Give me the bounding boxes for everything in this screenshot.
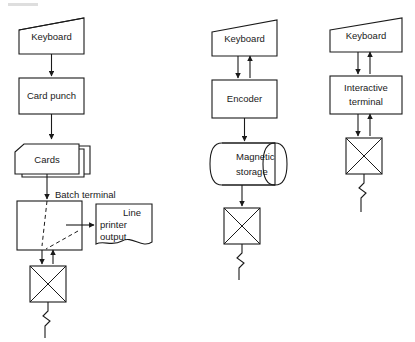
node-c1-line-printer-line3: output bbox=[100, 231, 127, 242]
comm-line-bolt-c1 bbox=[43, 302, 50, 338]
node-c1-comm-link[interactable] bbox=[30, 266, 66, 302]
node-c1-card-punch[interactable]: Card punch bbox=[19, 78, 84, 114]
node-c2-magnetic-storage[interactable]: Magnetic storage bbox=[210, 143, 287, 185]
column-interactive-terminal: Keyboard Interactive terminal bbox=[330, 18, 402, 212]
node-c3-interactive-line2: terminal bbox=[349, 96, 383, 107]
node-c1-cards[interactable]: Cards bbox=[15, 144, 90, 177]
node-c1-line-printer-line1: Line bbox=[123, 207, 141, 218]
node-c3-interactive-terminal[interactable]: Interactive terminal bbox=[330, 76, 402, 114]
column-key-to-storage: Keyboard Encoder Magnetic storage bbox=[210, 20, 287, 280]
node-c2-encoder[interactable]: Encoder bbox=[212, 80, 277, 118]
node-c1-keyboard-label: Keyboard bbox=[31, 31, 72, 42]
node-c2-keyboard[interactable]: Keyboard bbox=[212, 20, 277, 56]
column-batch-card-punch: Keyboard Card punch Cards Batch terminal bbox=[15, 18, 152, 338]
scan-artifact bbox=[8, 3, 38, 6]
node-c2-comm-link[interactable] bbox=[224, 208, 260, 244]
node-c1-cards-label: Cards bbox=[34, 154, 60, 165]
node-c1-line-printer-line2: printer bbox=[100, 219, 127, 230]
comm-line-bolt-c2 bbox=[237, 244, 244, 280]
edge-label-batch-terminal: Batch terminal bbox=[55, 189, 116, 200]
node-c1-card-punch-label: Card punch bbox=[27, 90, 76, 101]
node-c2-magnetic-line1: Magnetic bbox=[236, 151, 275, 162]
node-c1-line-printer-output[interactable]: Line printer output bbox=[96, 204, 152, 244]
node-c1-keyboard[interactable]: Keyboard bbox=[19, 18, 84, 54]
node-c2-keyboard-label: Keyboard bbox=[224, 33, 265, 44]
node-c2-encoder-label: Encoder bbox=[227, 93, 262, 104]
comm-line-bolt-c3 bbox=[359, 174, 366, 212]
node-c2-magnetic-line2: storage bbox=[236, 166, 268, 177]
node-c3-keyboard-label: Keyboard bbox=[346, 30, 387, 41]
flowchart-diagram: Keyboard Card punch Cards Batch terminal bbox=[0, 0, 415, 342]
node-c3-comm-link[interactable] bbox=[346, 138, 382, 174]
node-c3-keyboard[interactable]: Keyboard bbox=[330, 18, 402, 52]
node-c3-interactive-line1: Interactive bbox=[344, 82, 388, 93]
